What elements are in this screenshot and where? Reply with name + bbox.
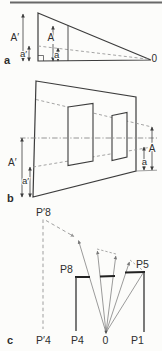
panel-b: A′ a′ A a b: [7, 81, 157, 204]
ground-extension: [136, 170, 157, 171]
label-c-wall-right: P5: [136, 258, 149, 270]
label-c-projected-top: P′8: [36, 206, 51, 218]
figure: A′ a′ A a 0 a A′ a′ A a b: [0, 0, 162, 351]
label-b-left-eye: a′: [22, 175, 29, 186]
sight-ray-3: [106, 256, 116, 333]
window-left: [68, 104, 93, 166]
sight-ray-5: [106, 272, 144, 333]
panel-letter-a: a: [4, 54, 11, 66]
panel-a: A′ a′ A a 0 a: [4, 13, 158, 66]
label-c-vantage: 0: [103, 334, 109, 346]
label-a-mid-eye: a: [54, 49, 60, 60]
panel-letter-c: c: [7, 334, 13, 346]
plan-wall-segment-3: [125, 272, 145, 273]
panel-letter-b: b: [7, 192, 14, 204]
panel-c: P′8 P8 P5 P′4 P4 0 P1 c: [7, 206, 149, 347]
window-right: [112, 113, 127, 161]
label-a-mid-size: A: [48, 32, 55, 43]
diagram-canvas: A′ a′ A a 0 a A′ a′ A a b: [0, 0, 162, 351]
sight-ray-2: [97, 251, 106, 333]
label-a-left-eye: a′: [20, 48, 27, 59]
projected-span-left: [97, 249, 116, 254]
plan-wall-segment-2: [100, 276, 115, 277]
perspective-line-top: [36, 100, 152, 128]
label-a-vantage: 0: [152, 53, 158, 64]
label-b-right-size: A: [149, 143, 156, 154]
label-b-right-eye: a: [142, 156, 148, 167]
label-a-left-size: A′: [11, 32, 20, 43]
projection-dashed-slope: [46, 221, 74, 237]
label-c-base-left: P4: [71, 334, 84, 346]
right-angle-mark: [38, 56, 44, 62]
label-c-projected-bottom: P′4: [36, 334, 51, 346]
label-b-left-size: A′: [8, 157, 17, 168]
sight-ray-1: [79, 241, 107, 333]
label-c-base-right: P1: [131, 334, 144, 346]
label-c-wall-left: P8: [60, 263, 73, 275]
